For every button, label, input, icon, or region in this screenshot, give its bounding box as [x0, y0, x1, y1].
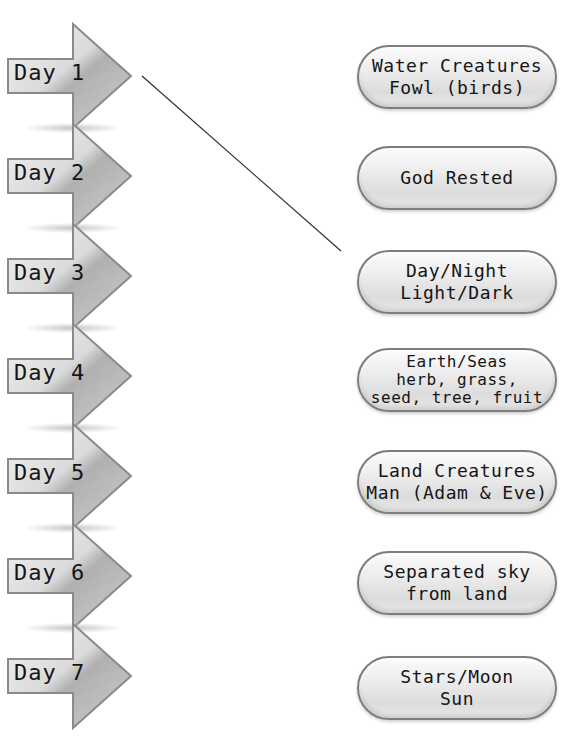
answer-text-line: from land	[406, 583, 508, 605]
day-label: Day 5	[14, 460, 124, 485]
day-label: Day 1	[14, 60, 124, 85]
day-arrow-3[interactable]: Day 3	[0, 222, 140, 330]
day-arrow-2[interactable]: Day 2	[0, 122, 140, 230]
day-label: Day 7	[14, 660, 124, 685]
answer-text-line: Sun	[440, 688, 474, 710]
answer-text-line: Earth/Seas	[406, 353, 507, 371]
answer-button-1[interactable]: Water CreaturesFowl (birds)	[357, 45, 557, 109]
day-arrow-1[interactable]: Day 1	[0, 22, 140, 130]
day-arrow-4[interactable]: Day 4	[0, 322, 140, 430]
day-arrow-6[interactable]: Day 6	[0, 522, 140, 630]
day-label: Day 3	[14, 260, 124, 285]
answer-text-line: Separated sky	[383, 561, 530, 583]
day-label: Day 6	[14, 560, 124, 585]
day-label: Day 4	[14, 360, 124, 385]
answer-text-line: Fowl (birds)	[389, 77, 525, 99]
answer-text-line: seed, tree, fruit	[371, 389, 543, 407]
answer-text-line: Day/Night	[406, 260, 508, 282]
day-arrow-7[interactable]: Day 7	[0, 622, 140, 730]
day-arrow-5[interactable]: Day 5	[0, 422, 140, 530]
answer-button-4[interactable]: Earth/Seasherb, grass,seed, tree, fruit	[357, 348, 557, 412]
answer-button-3[interactable]: Day/NightLight/Dark	[357, 250, 557, 314]
answer-text-line: Land Creatures	[378, 460, 537, 482]
answer-text-line: Water Creatures	[372, 55, 542, 77]
answer-button-5[interactable]: Land CreaturesMan (Adam & Eve)	[357, 450, 557, 514]
answer-text-line: Man (Adam & Eve)	[366, 482, 547, 504]
answer-button-7[interactable]: Stars/MoonSun	[357, 656, 557, 720]
answer-button-2[interactable]: God Rested	[357, 146, 557, 210]
answer-text-line: God Rested	[400, 167, 513, 189]
answer-text-line: herb, grass,	[396, 371, 518, 389]
answer-text-line: Light/Dark	[400, 282, 513, 304]
answer-button-6[interactable]: Separated skyfrom land	[357, 551, 557, 615]
answer-text-line: Stars/Moon	[400, 666, 513, 688]
day-label: Day 2	[14, 160, 124, 185]
